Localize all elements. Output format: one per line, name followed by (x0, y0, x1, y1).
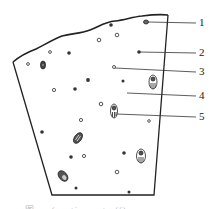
callout-1: 1 (199, 17, 205, 28)
callout-4: 4 (199, 90, 205, 101)
section-outline (13, 15, 168, 195)
diagram-canvas (0, 0, 214, 209)
callout-3: 3 (199, 66, 205, 77)
callout-2: 2 (199, 47, 205, 58)
leader-lines (115, 22, 196, 117)
ringed-particle (144, 20, 149, 24)
figure-caption: 图 … (caption cut off) (25, 203, 195, 209)
striped-grains (41, 61, 158, 183)
callout-5: 5 (199, 111, 205, 122)
solid-particles (40, 23, 141, 193)
hollow-particles (27, 33, 151, 174)
